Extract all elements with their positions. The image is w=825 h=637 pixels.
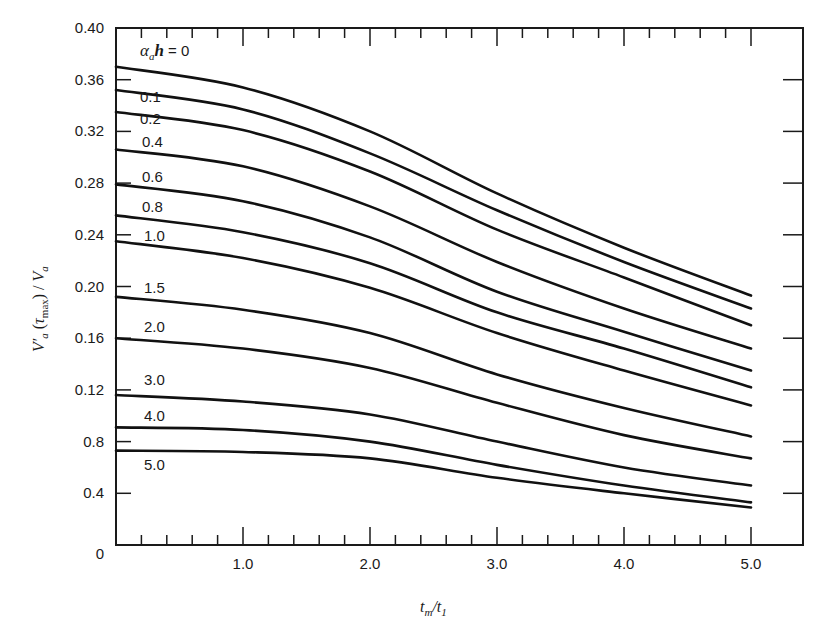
curve-label-0.2: 0.2 <box>140 110 161 127</box>
x-tick-label: 2.0 <box>360 555 381 572</box>
x-axis-title: tm/t1 <box>420 598 447 618</box>
curve-label-1.5: 1.5 <box>144 279 165 296</box>
y-axis-title: V′a (τmax) / Va <box>30 266 50 352</box>
curve-alpha-h-0.8 <box>116 215 751 387</box>
curve-labels: 0.10.20.40.60.81.01.52.03.04.05.0 <box>140 88 165 473</box>
curve-label-0.4: 0.4 <box>142 133 163 150</box>
y-tick-label: 0.28 <box>75 174 104 191</box>
curve-label-4.0: 4.0 <box>144 407 165 424</box>
y-tick-label: 0.32 <box>75 122 104 139</box>
curves <box>116 67 751 508</box>
curve-alpha-h-4.0 <box>116 427 751 502</box>
curve-label-3.0: 3.0 <box>144 371 165 388</box>
y-tick-label: 0.8 <box>83 433 104 450</box>
x-tick-label: 5.0 <box>741 555 762 572</box>
curve-label-0.1: 0.1 <box>140 88 161 105</box>
curve-label-0.8: 0.8 <box>142 198 163 215</box>
y-tick-label: 0 <box>96 545 104 562</box>
curve-label-2.0: 2.0 <box>144 318 165 335</box>
curve-label-5.0: 5.0 <box>144 456 165 473</box>
y-tick-label: 0.12 <box>75 381 104 398</box>
curve-alpha-h-0.4 <box>116 149 751 348</box>
curve-label-0.6: 0.6 <box>142 168 163 185</box>
x-tick-label: 4.0 <box>614 555 635 572</box>
x-tick-label: 1.0 <box>233 555 254 572</box>
curve-alpha-h-5.0 <box>116 451 751 508</box>
alpha-h-label: αah = 0 <box>140 41 189 62</box>
y-tick-label: 0.40 <box>75 19 104 36</box>
curve-alpha-h-0.2 <box>116 112 751 325</box>
x-tick-label: 3.0 <box>487 555 508 572</box>
y-tick-label: 0.20 <box>75 278 104 295</box>
chart: 1.02.03.04.05.0 0.400.360.320.280.240.20… <box>0 0 825 637</box>
curve-alpha-h-1.0 <box>116 241 751 405</box>
y-tick-label: 0.4 <box>83 484 104 501</box>
curve-label-1.0: 1.0 <box>144 227 165 244</box>
curve-alpha-h-0.6 <box>116 184 751 370</box>
svg-text:V′a (τmax) / Va: V′a (τmax) / Va <box>30 266 50 352</box>
y-tick-label: 0.36 <box>75 71 104 88</box>
y-tick-label: 0.24 <box>75 226 104 243</box>
y-tick-label: 0.16 <box>75 329 104 346</box>
